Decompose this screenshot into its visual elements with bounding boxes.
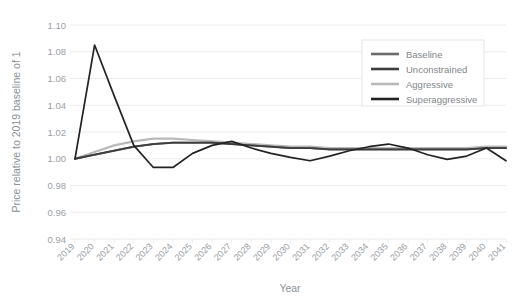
legend-label-aggressive[interactable]: Aggressive xyxy=(406,79,453,90)
y-tick-label: 1.04 xyxy=(48,100,67,111)
x-tick-label: 2041 xyxy=(486,241,507,262)
x-tick-label: 2033 xyxy=(329,241,350,262)
x-tick-label: 2039 xyxy=(447,241,468,262)
x-tick-labels: 2019202020212022202320242025202620272028… xyxy=(55,239,507,263)
x-tick-label: 2022 xyxy=(114,241,135,262)
y-tick-label: 0.98 xyxy=(48,180,67,191)
y-tick-label: 1.10 xyxy=(48,20,67,31)
y-tick-label: 1.08 xyxy=(48,46,67,57)
chart-canvas: 0.940.960.981.001.021.041.061.081.10 201… xyxy=(0,0,526,301)
x-tick-label: 2023 xyxy=(134,241,155,262)
legend-label-baseline[interactable]: Baseline xyxy=(406,49,442,60)
line-chart-figure: 0.940.960.981.001.021.041.061.081.10 201… xyxy=(0,0,526,301)
x-tick-label: 2040 xyxy=(467,241,488,262)
y-tick-label: 1.00 xyxy=(48,153,67,164)
x-tick-label: 2019 xyxy=(55,241,76,262)
x-tick-label: 2028 xyxy=(231,241,252,262)
y-axis-title: Price relative to 2019 baseline of 1 xyxy=(10,51,22,212)
x-tick-label: 2024 xyxy=(153,241,174,262)
x-tick-label: 2036 xyxy=(388,241,409,262)
x-tick-label: 2020 xyxy=(75,241,96,262)
x-tick-label: 2027 xyxy=(212,241,233,262)
x-tick-label: 2034 xyxy=(349,241,370,262)
x-tick-label: 2021 xyxy=(94,241,115,262)
x-tick-label: 2035 xyxy=(369,241,390,262)
x-tick-label: 2026 xyxy=(192,241,213,262)
legend-label-superaggressive[interactable]: Superaggressive xyxy=(406,94,477,105)
chart-legend[interactable]: BaselineUnconstrainedAggressiveSuperaggr… xyxy=(362,40,484,106)
x-tick-label: 2038 xyxy=(427,241,448,262)
y-tick-label: 1.06 xyxy=(48,73,67,84)
y-tick-labels: 0.940.960.981.001.021.041.061.081.10 xyxy=(48,20,76,245)
x-tick-label: 2031 xyxy=(290,241,311,262)
legend-label-unconstrained[interactable]: Unconstrained xyxy=(406,64,467,75)
x-tick-label: 2037 xyxy=(408,241,429,262)
x-axis-title: Year xyxy=(279,282,301,294)
x-tick-label: 2032 xyxy=(310,241,331,262)
x-tick-label: 2029 xyxy=(251,241,272,262)
y-tick-label: 0.96 xyxy=(48,207,67,218)
x-tick-label: 2025 xyxy=(173,241,194,262)
x-tick-label: 2030 xyxy=(271,241,292,262)
y-tick-label: 1.02 xyxy=(48,127,67,138)
y-tick-label: 0.94 xyxy=(48,234,67,245)
